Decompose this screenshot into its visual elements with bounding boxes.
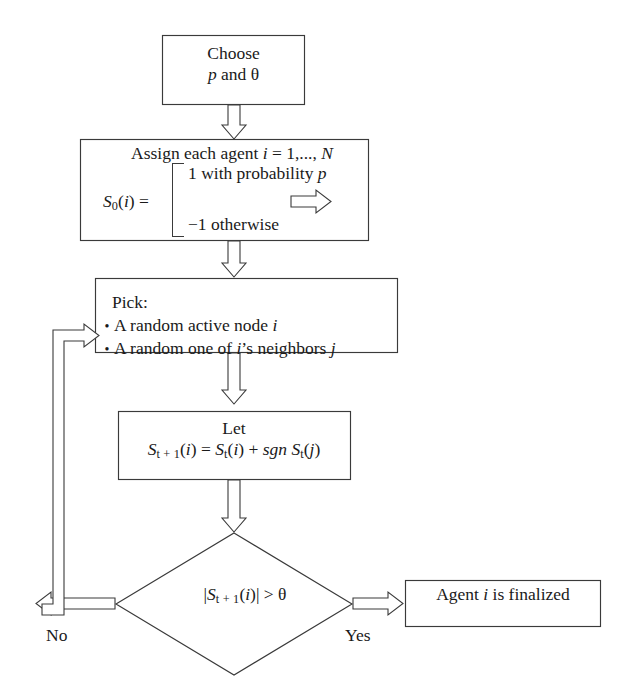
pick-bullet-list: • A random active node i • A random one … [100,315,336,361]
let-sub1: t + 1 [156,448,180,462]
assign-lhs-s: S [103,191,112,211]
assign-header-prefix: Assign each agent [131,143,263,163]
assign-header-range: = 1,..., [268,143,322,163]
list-item: • A random one of i’s neighbors j [100,338,336,359]
piecewise-cases: 1 with probability p −1 otherwise [184,163,327,235]
edge-no-feedback-path [42,324,99,615]
decision-theta: θ [278,584,286,604]
bullet-dot-icon: • [100,343,114,357]
piecewise-case-true: 1 with probability p [188,163,327,184]
choose-var-p: p [208,64,217,84]
let-equation: St + 1(i) = St(i) + sgn St(j) [118,439,350,462]
edge-choose-to-assign-arrow [222,105,246,139]
final-suffix: is finalized [488,584,570,604]
let-s3: S [287,439,300,459]
decision-s: S [207,584,216,604]
edge-label-no: No [46,625,67,646]
list-item: • A random active node i [100,315,336,336]
pick-item-2-text: A random one of i’s neighbors j [114,338,336,359]
node-choose-label: Choose p and θ [162,43,305,86]
node-assign-header: Assign each agent i = 1,..., N [88,143,376,164]
let-close3: ) [314,439,320,459]
let-line-1: Let [118,418,350,439]
edge-label-yes: Yes [345,625,370,646]
decision-operator: > [259,584,278,604]
node-final-label: Agent i is finalized [406,584,600,605]
choose-line-2: p and θ [162,64,305,85]
choose-and: and [217,64,251,84]
piecewise-case-false: −1 otherwise [188,214,327,235]
node-let-label: Let St + 1(i) = St(i) + sgn St(j) [118,418,350,463]
let-close2: ) + [238,439,262,459]
decision-sub: t + 1 [216,592,240,606]
let-s2: S [215,439,224,459]
edge-assign-to-pick-arrow [222,241,246,277]
final-prefix: Agent [436,584,483,604]
choose-theta: θ [251,64,259,84]
pick-item-1-text: A random active node i [114,315,277,336]
piecewise-brace-icon [172,163,184,237]
let-close1: ) = [191,439,215,459]
case-true-var-p: p [318,163,327,183]
node-decision-label: |St + 1(i)| > θ [145,584,345,607]
assign-lhs-close: ) = [129,191,149,211]
edge-yes-arrow [353,592,403,615]
pick-item-2-var-j: j [331,338,336,358]
node-assign-lhs: S0(i) = [103,191,149,214]
edge-let-to-decision-arrow [222,480,246,532]
flowchart-diagram: Choose p and θ Assign each agent i = 1,.… [0,0,625,677]
let-sgn: sgn [263,439,287,459]
node-pick-heading: Pick: [112,292,148,313]
case-true-prefix: 1 with probability [188,163,318,183]
bullet-dot-icon: • [100,320,114,334]
pick-item-1-var: i [272,315,277,335]
assign-header-n: N [321,143,333,163]
assign-piecewise-group: 1 with probability p −1 otherwise [172,163,327,237]
choose-line-1: Choose [162,43,305,64]
